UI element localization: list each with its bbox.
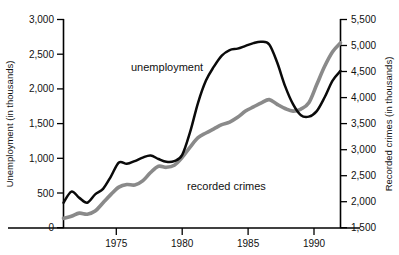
series-annotation-recorded-crimes: recorded crimes [187,180,266,192]
chart-background [0,0,399,255]
left-axis-title: Unemployment (in thousands) [4,61,15,188]
right-axis-tick-labels: 5,500 5,000 4,500 4,000 3,500 3,000 2,50… [351,14,376,233]
series-annotation-unemployment: unemployment [131,61,203,73]
right-tick-label: 1,500 [351,222,376,233]
right-tick-label: 3,000 [351,144,376,155]
left-tick-label: 3,000 [29,14,54,25]
x-tick-label: 1975 [105,238,128,249]
chart-container: 3,000 2,500 2,000 1,500 1,000 500 0 5,50… [0,0,399,255]
x-tick-label: 1990 [303,238,326,249]
x-tick-label: 1985 [237,238,260,249]
right-tick-label: 5,000 [351,40,376,51]
right-tick-label: 3,500 [351,118,376,129]
left-tick-label: 2,000 [29,83,54,94]
right-tick-label: 4,000 [351,92,376,103]
left-tick-label: 500 [37,188,54,199]
dual-axis-line-chart: 3,000 2,500 2,000 1,500 1,000 500 0 5,50… [0,0,399,255]
left-tick-label: 0 [48,222,54,233]
right-tick-label: 5,500 [351,14,376,25]
right-axis-title: Recorded crimes (in thousands) [383,57,394,192]
x-tick-label: 1980 [171,238,194,249]
left-tick-label: 1,000 [29,153,54,164]
left-tick-label: 1,500 [29,118,54,129]
right-tick-label: 2,500 [351,170,376,181]
right-tick-label: 2,000 [351,196,376,207]
left-tick-label: 2,500 [29,49,54,60]
right-tick-label: 4,500 [351,66,376,77]
